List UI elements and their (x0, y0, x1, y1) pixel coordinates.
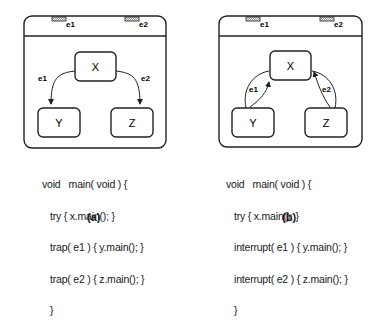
panel-a: e1 e2 X Y Z e1 e2 void main( void ) { tr… (0, 0, 190, 234)
event-label-e1: e1 (66, 20, 75, 29)
svg-text:Z: Z (323, 117, 330, 129)
svg-text:e2: e2 (322, 85, 331, 94)
svg-text:e1: e1 (249, 85, 258, 94)
svg-text:e2: e2 (141, 74, 150, 83)
code-line: trap( e2 ) { z.main(); } (42, 274, 144, 285)
code-line: interrupt( e1 ) { y.main(); } (226, 242, 348, 253)
code-block-b: void main( void ) { try { x.main(); } in… (226, 158, 348, 320)
event-port-e1 (52, 17, 66, 21)
svg-text:e1: e1 (38, 74, 47, 83)
svg-text:Y: Y (249, 117, 257, 129)
caption-a: (a) (87, 211, 100, 223)
code-block-a: void main( void ) { try { x.main(); } tr… (42, 158, 144, 320)
code-line: void main( void ) { (226, 179, 348, 190)
transition-x-z (116, 71, 140, 104)
svg-text:X: X (287, 60, 295, 72)
code-line: void main( void ) { (42, 179, 144, 190)
code-line: interrupt( e2 ) { z.main(); } (226, 274, 348, 285)
code-line: trap( e1 ) { y.main(); } (42, 242, 144, 253)
code-line: } (42, 305, 144, 316)
event-label-e2: e2 (334, 20, 343, 29)
svg-text:Z: Z (129, 117, 136, 129)
transition-x-y (51, 71, 75, 104)
caption-b: (b) (282, 211, 296, 223)
svg-text:X: X (92, 61, 100, 73)
event-label-e2: e2 (139, 20, 148, 29)
svg-text:Y: Y (55, 117, 63, 129)
event-port-e2 (125, 17, 139, 21)
event-port-e1 (246, 17, 260, 21)
panel-b: e1 e2 X Y Z e1 e2 void main( void ) { tr… (190, 0, 379, 234)
event-label-e1: e1 (260, 20, 269, 29)
event-port-e2 (320, 17, 334, 21)
code-line: } (226, 305, 348, 316)
